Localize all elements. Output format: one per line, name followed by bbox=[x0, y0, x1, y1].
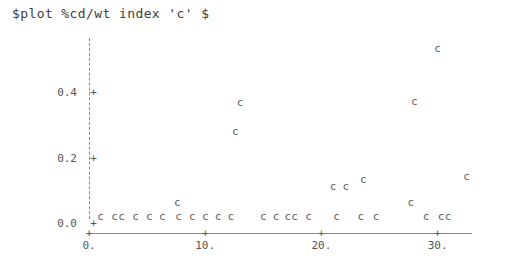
data-point-marker: c bbox=[423, 211, 430, 222]
data-point-marker: c bbox=[284, 211, 291, 222]
x-tick-mark: + bbox=[86, 228, 93, 239]
plot-canvas: $plot %cd/wt index 'c' $ 0.0+0.2+0.4+ +0… bbox=[0, 0, 510, 266]
data-point-marker: c bbox=[97, 211, 104, 222]
data-point-marker: c bbox=[273, 211, 280, 222]
y-tick-label: 0.2 bbox=[57, 153, 77, 164]
data-point-marker: c bbox=[118, 211, 125, 222]
x-tick-label: 20. bbox=[311, 240, 331, 251]
x-tick-label: 30. bbox=[428, 240, 448, 251]
data-point-marker: c bbox=[360, 174, 367, 185]
data-point-marker: c bbox=[358, 211, 365, 222]
data-point-marker: c bbox=[260, 211, 267, 222]
data-point-marker: c bbox=[291, 211, 298, 222]
x-tick-label: 10. bbox=[195, 240, 215, 251]
data-point-marker: c bbox=[174, 196, 181, 207]
data-point-marker: c bbox=[342, 180, 349, 191]
data-point-marker: c bbox=[438, 211, 445, 222]
data-point-marker: c bbox=[463, 171, 470, 182]
data-point-marker: c bbox=[202, 211, 209, 222]
data-point-marker: c bbox=[411, 96, 418, 107]
data-point-marker: c bbox=[175, 211, 182, 222]
data-point-marker: c bbox=[132, 211, 139, 222]
x-tick-mark: + bbox=[318, 228, 325, 239]
x-tick-label: 0. bbox=[82, 240, 95, 251]
y-tick-label: 0.4 bbox=[57, 87, 77, 98]
data-point-marker: c bbox=[159, 211, 166, 222]
data-point-marker: c bbox=[146, 211, 153, 222]
x-axis-line bbox=[89, 233, 472, 234]
data-point-marker: c bbox=[445, 211, 452, 222]
x-tick-mark: + bbox=[434, 228, 441, 239]
x-tick-mark: + bbox=[202, 228, 209, 239]
data-point-marker: c bbox=[330, 180, 337, 191]
data-point-marker: c bbox=[189, 211, 196, 222]
data-point-marker: c bbox=[227, 211, 234, 222]
data-point-marker: c bbox=[434, 42, 441, 53]
data-point-marker: c bbox=[215, 211, 222, 222]
y-tick-mark: + bbox=[89, 153, 98, 164]
y-axis-dashed-line bbox=[89, 38, 90, 219]
data-point-marker: c bbox=[408, 196, 415, 207]
data-point-marker: c bbox=[232, 126, 239, 137]
data-point-marker: c bbox=[111, 211, 118, 222]
plot-title: $plot %cd/wt index 'c' $ bbox=[12, 6, 209, 21]
data-point-marker: c bbox=[237, 96, 244, 107]
y-tick-mark: + bbox=[89, 87, 98, 98]
y-tick-label: 0.0 bbox=[57, 218, 77, 229]
data-point-marker: c bbox=[305, 211, 312, 222]
data-point-marker: c bbox=[333, 211, 340, 222]
data-point-marker: c bbox=[373, 211, 380, 222]
